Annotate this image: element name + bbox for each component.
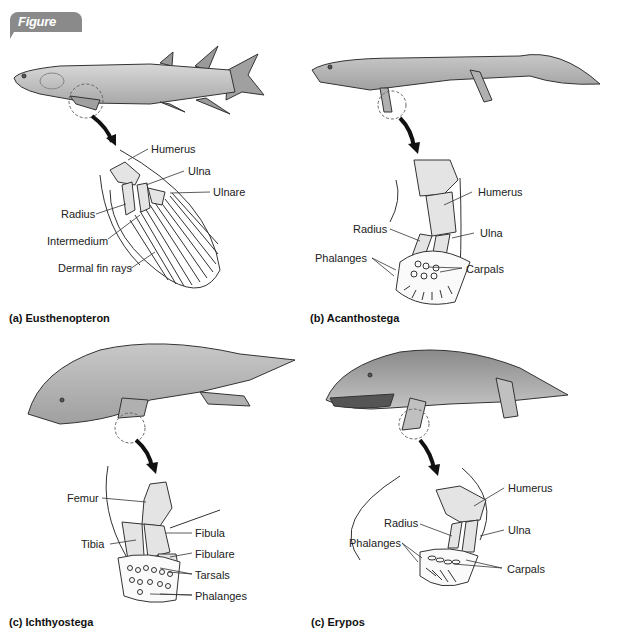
caption-a: (a) Eusthenopteron [9, 313, 110, 324]
eusthenopteron-illustration [14, 46, 264, 118]
label-ulna-a: Ulna [188, 166, 211, 177]
label-phalanges-d: Phalanges [349, 538, 401, 549]
label-tibia-c: Tibia [81, 539, 104, 550]
label-humerus-a: Humerus [151, 144, 196, 155]
label-femur-c: Femur [67, 493, 99, 504]
label-radius-b: Radius [353, 224, 387, 235]
ichthyostega-illustration [28, 344, 295, 443]
label-ulnare-a: Ulnare [213, 187, 245, 198]
label-humerus-d: Humerus [508, 483, 553, 494]
caption-d: (c) Erypos [311, 617, 365, 628]
label-tarsals-c: Tarsals [195, 570, 230, 581]
caption-b: (b) Acanthostega [310, 313, 399, 324]
erypos-limb-skeleton [351, 468, 487, 586]
label-carpals-b: Carpals [466, 264, 504, 275]
acanthostega-illustration [312, 55, 600, 119]
label-ulna-b: Ulna [480, 228, 503, 239]
label-intermedium-a: Intermedium [47, 236, 108, 247]
label-humerus-b: Humerus [478, 187, 523, 198]
label-dermal-fin-rays-a: Dermal fin rays [58, 263, 132, 274]
label-fibula-c: Fibula [195, 528, 225, 539]
label-phalanges-b: Phalanges [315, 253, 367, 264]
acanthostega-limb-skeleton [390, 160, 470, 304]
erypos-illustration [326, 350, 568, 439]
caption-c: (c) Ichthyostega [9, 617, 93, 628]
label-radius-d: Radius [384, 518, 418, 529]
label-phalanges-c: Phalanges [195, 591, 247, 602]
label-ulna-d: Ulna [508, 525, 531, 536]
label-fibulare-c: Fibulare [195, 549, 235, 560]
label-radius-a: Radius [61, 209, 95, 220]
label-carpals-d: Carpals [507, 564, 545, 575]
